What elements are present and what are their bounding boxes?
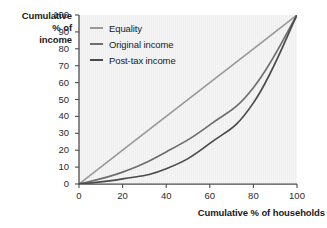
legend-label-original-income: Original income xyxy=(109,39,174,50)
legend-swatch-post-tax-income xyxy=(90,59,103,61)
y-tick-label: 30 xyxy=(45,128,69,138)
x-tick-label: 80 xyxy=(240,191,266,201)
y-tick-label: 0 xyxy=(45,179,69,189)
x-tick-label: 20 xyxy=(110,191,136,201)
legend-item-post-tax-income: Post-tax income xyxy=(90,52,176,68)
y-tick-label: 40 xyxy=(45,111,69,121)
legend-swatch-equality xyxy=(90,27,103,29)
x-tick-label: 40 xyxy=(153,191,179,201)
legend-swatch-original-income xyxy=(90,43,103,45)
y-tick-label: 70 xyxy=(45,61,69,71)
y-tick-label: 90 xyxy=(45,27,69,37)
y-tick-label: 80 xyxy=(45,44,69,54)
lorenz-curve-chart: Cumulative % of income 01020304050607080… xyxy=(0,0,327,228)
x-tick-label: 0 xyxy=(66,191,92,201)
y-tick-label: 10 xyxy=(45,162,69,172)
x-tick-label: 100 xyxy=(284,191,310,201)
legend-label-post-tax-income: Post-tax income xyxy=(109,55,176,66)
legend-item-original-income: Original income xyxy=(90,36,176,52)
legend-item-equality: Equality xyxy=(90,20,176,36)
y-tick-label: 100 xyxy=(45,10,69,20)
y-tick-label: 60 xyxy=(45,78,69,88)
y-tick-label: 50 xyxy=(45,95,69,105)
legend-label-equality: Equality xyxy=(109,23,142,34)
chart-legend: Equality Original income Post-tax income xyxy=(90,20,176,68)
x-tick-label: 60 xyxy=(197,191,223,201)
y-tick-label: 20 xyxy=(45,145,69,155)
x-axis-title: Cumulative % of households xyxy=(150,207,325,218)
